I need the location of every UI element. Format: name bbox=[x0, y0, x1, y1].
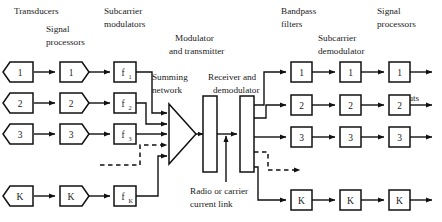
subcarrier-demodulator-k-label: K bbox=[347, 196, 354, 206]
header-receiver-demodulator-line1: Receiver and bbox=[208, 72, 257, 82]
bandpass-filter-k-label: K bbox=[298, 196, 305, 206]
header-radio-link-line2: current link bbox=[190, 199, 233, 209]
ellipsis-dashed-right bbox=[254, 152, 300, 170]
transducer-2-label: 2 bbox=[18, 99, 23, 109]
header-subcarrier-modulators-line1: Subcarrier bbox=[104, 6, 142, 16]
receiver-demodulator-block[interactable] bbox=[240, 96, 254, 172]
bandpass-filter-1-label: 1 bbox=[299, 68, 304, 78]
header-summing-network-line2: network bbox=[152, 85, 183, 95]
header-signal-processors-left-line2: processors bbox=[46, 37, 85, 47]
subcarrier-modulator-k-sub: K bbox=[129, 197, 134, 204]
header-modulator-transmitter-line2: and transmitter bbox=[169, 46, 224, 56]
header-summing-network-line1: Summing bbox=[152, 72, 188, 82]
subcarrier-modulator-2[interactable] bbox=[114, 93, 136, 113]
output-row-3: 3 3 3 bbox=[291, 127, 432, 147]
signal-processor-right-2-label: 2 bbox=[397, 101, 402, 111]
bandpass-filter-3-label: 3 bbox=[299, 133, 304, 143]
header-transducers: Transducers bbox=[14, 6, 59, 16]
channel-row-2: 2 2 f 2 bbox=[3, 93, 167, 124]
header-modulator-transmitter-line1: Modulator bbox=[175, 33, 214, 43]
ellipsis-dashed-left bbox=[100, 145, 167, 165]
signal-processor-left-1[interactable] bbox=[60, 62, 89, 82]
header-signal-processors-left-line1: Signal bbox=[46, 24, 70, 34]
signal-processor-left-3-label: 3 bbox=[69, 130, 74, 140]
channel-row-k: K K f K bbox=[3, 156, 167, 206]
header-radio-link-line1: Radio or carrier bbox=[190, 186, 248, 196]
signal-processor-left-k[interactable] bbox=[60, 186, 89, 206]
bandpass-filter-2-label: 2 bbox=[299, 101, 304, 111]
header-subcarrier-demodulator-line1: Subcarrier bbox=[318, 33, 356, 43]
modulator-transmitter-block[interactable] bbox=[203, 96, 217, 172]
diagram-canvas: Transducers Signal processors Subcarrier… bbox=[0, 0, 442, 222]
header-bandpass-filters-line1: Bandpass bbox=[281, 6, 317, 16]
subcarrier-demodulator-1-label: 1 bbox=[348, 68, 353, 78]
output-row-1: 1 1 1 bbox=[291, 62, 432, 82]
signal-processor-right-3-label: 3 bbox=[397, 133, 402, 143]
subcarrier-demodulator-2-label: 2 bbox=[348, 101, 353, 111]
header-subcarrier-demodulator-line2: demodulator bbox=[318, 46, 364, 56]
signal-processor-right-1-label: 1 bbox=[397, 68, 402, 78]
header-receiver-demodulator-line2: demodulator bbox=[213, 85, 259, 95]
channel-row-3: 3 3 f 3 bbox=[3, 124, 167, 144]
wire-receiver-to-filter-2 bbox=[254, 105, 286, 118]
transducer-1-label: 1 bbox=[18, 68, 23, 78]
transducer-k-label: K bbox=[17, 192, 24, 202]
signal-processor-left-3[interactable] bbox=[60, 124, 89, 144]
summing-network[interactable] bbox=[169, 104, 196, 164]
subcarrier-modulator-1-sub: 1 bbox=[129, 73, 132, 80]
signal-processor-left-2[interactable] bbox=[60, 93, 89, 113]
subcarrier-modulator-3[interactable] bbox=[114, 124, 136, 144]
signal-processor-left-k-label: K bbox=[68, 192, 75, 202]
signal-processor-right-k-label: K bbox=[396, 196, 403, 206]
subcarrier-modulator-2-sub: 2 bbox=[129, 104, 132, 111]
wire-receiver-to-filter-k bbox=[254, 167, 286, 200]
signal-processor-left-2-label: 2 bbox=[69, 99, 74, 109]
transducer-3-label: 3 bbox=[18, 130, 23, 140]
header-signal-processors-right-line1: Signal bbox=[377, 6, 401, 16]
signal-processor-left-1-label: 1 bbox=[69, 68, 74, 78]
output-row-k: K K K bbox=[291, 190, 432, 210]
header-subcarrier-modulators-line2: modulators bbox=[104, 19, 146, 29]
subcarrier-modulator-3-sub: 3 bbox=[129, 135, 132, 142]
subcarrier-demodulator-3-label: 3 bbox=[348, 133, 353, 143]
subcarrier-modulator-1[interactable] bbox=[114, 62, 136, 82]
header-bandpass-filters-line2: filters bbox=[281, 19, 303, 29]
header-signal-processors-right-line2: processors bbox=[377, 19, 416, 29]
